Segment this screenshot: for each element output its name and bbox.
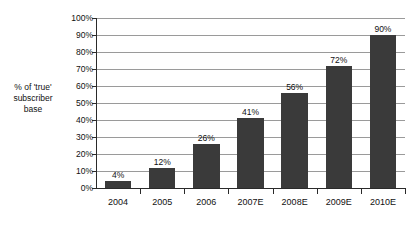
y-tick-label: 30% (56, 133, 93, 142)
y-tick-label: 40% (56, 116, 93, 125)
x-tick-label: 2006 (184, 196, 228, 208)
x-axis-line (96, 188, 406, 189)
y-axis-title: % of 'true' subscriber base (2, 82, 64, 115)
bar-group: 41% (228, 18, 272, 188)
x-tick-label: 2010E (361, 196, 405, 208)
y-tickmark (92, 35, 97, 36)
bar (326, 66, 352, 188)
y-tickmark (92, 18, 97, 19)
y-tick-label: 90% (56, 31, 93, 40)
bar (237, 118, 263, 188)
x-tickmark (405, 189, 406, 194)
bar-group: 72% (317, 18, 361, 188)
bar-value-label: 12% (135, 157, 190, 167)
x-tickmark (140, 189, 141, 194)
y-tick-label: 0% (56, 184, 93, 193)
bar (370, 35, 396, 188)
y-tick-label: 20% (56, 150, 93, 159)
bar-value-label: 4% (91, 170, 146, 180)
x-tickmark (361, 189, 362, 194)
x-axis-tick-labels: 2004200520062007E2008E2009E2010E (96, 196, 405, 210)
y-tick-label: 80% (56, 48, 93, 57)
y-tickmark (92, 52, 97, 53)
bar-group: 56% (273, 18, 317, 188)
y-tickmark (92, 188, 97, 189)
bar (281, 93, 307, 188)
bar (105, 181, 131, 188)
y-tickmark (92, 120, 97, 121)
y-axis-tick-labels: 0%10%20%30%40%50%60%70%80%90%100% (56, 0, 93, 228)
x-tick-label: 2004 (96, 196, 140, 208)
bar-group: 12% (140, 18, 184, 188)
bar-value-label: 26% (179, 133, 234, 143)
bar-value-label: 41% (223, 107, 278, 117)
y-tick-label: 50% (56, 99, 93, 108)
y-tick-label: 60% (56, 82, 93, 91)
y-tickmark (92, 137, 97, 138)
y-tick-label: 100% (56, 14, 93, 23)
x-tick-label: 2008E (273, 196, 317, 208)
bar-chart: % of 'true' subscriber base 0%10%20%30%4… (0, 0, 416, 228)
bar (193, 144, 219, 188)
x-tickmark (184, 189, 185, 194)
bar-value-label: 56% (267, 82, 322, 92)
y-tickmark (92, 171, 97, 172)
bars-layer: 4%12%26%41%56%72%90% (96, 18, 405, 188)
y-tick-label: 10% (56, 167, 93, 176)
x-tickmark (273, 189, 274, 194)
bar-group: 4% (96, 18, 140, 188)
y-tickmark (92, 69, 97, 70)
bar-value-label: 90% (356, 24, 411, 34)
x-tick-label: 2009E (317, 196, 361, 208)
x-tickmark (228, 189, 229, 194)
x-tickmark (317, 189, 318, 194)
y-tickmark (92, 154, 97, 155)
x-tick-label: 2007E (228, 196, 272, 208)
bar-group: 90% (361, 18, 405, 188)
y-tickmark (92, 86, 97, 87)
bar (149, 168, 175, 188)
bar-value-label: 72% (311, 55, 366, 65)
x-tick-label: 2005 (140, 196, 184, 208)
y-tick-label: 70% (56, 65, 93, 74)
bar-group: 26% (184, 18, 228, 188)
y-tickmark (92, 103, 97, 104)
